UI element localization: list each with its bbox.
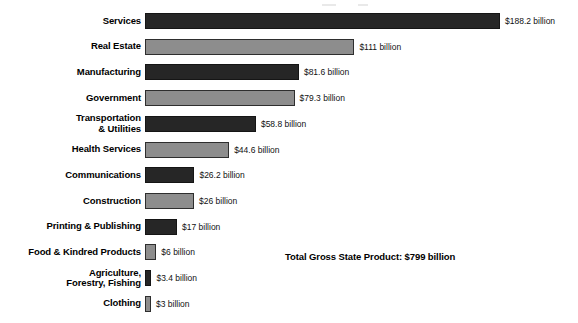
- category-label: Food & Kindred Products: [0, 247, 145, 258]
- bar-row: Clothing$3 billion: [0, 291, 578, 317]
- bar-track: $26.2 billion: [145, 162, 578, 188]
- bar-track: $26 billion: [145, 188, 578, 214]
- top-edge-artifact-right: [358, 4, 368, 6]
- bar-row: Government$79.3 billion: [0, 85, 578, 111]
- bar: [145, 142, 229, 158]
- bar-value-label: $26 billion: [194, 196, 237, 206]
- bar: [145, 219, 177, 235]
- category-label: Transportation & Utilities: [0, 113, 145, 134]
- bar-value-label: $6 billion: [156, 247, 195, 257]
- bar: [145, 13, 500, 29]
- bar-row: Printing & Publishing$17 billion: [0, 214, 578, 240]
- category-label: Agriculture, Forestry, Fishing: [0, 268, 145, 289]
- bar-value-label: $44.6 billion: [229, 145, 279, 155]
- bar: [145, 116, 256, 132]
- bar-value-label: $3.4 billion: [151, 273, 197, 283]
- bar-value-label: $111 billion: [354, 42, 401, 52]
- bar-track: $3 billion: [145, 291, 578, 317]
- bar-track: $79.3 billion: [145, 85, 578, 111]
- bar-track: $17 billion: [145, 214, 578, 240]
- bar-track: $3.4 billion: [145, 265, 578, 291]
- top-edge-artifact-left: [322, 4, 336, 6]
- bar: [145, 39, 354, 55]
- category-label: Health Services: [0, 144, 145, 155]
- category-label: Manufacturing: [0, 67, 145, 78]
- bar-row: Transportation & Utilities$58.8 billion: [0, 111, 578, 137]
- category-label: Communications: [0, 170, 145, 181]
- category-label: Services: [0, 16, 145, 27]
- bar-track: $188.2 billion: [145, 8, 578, 34]
- bar-row: Services$188.2 billion: [0, 8, 578, 34]
- bar-value-label: $3 billion: [151, 299, 190, 309]
- bar-value-label: $79.3 billion: [295, 93, 345, 103]
- bar-value-label: $81.6 billion: [299, 67, 349, 77]
- bar-row: Manufacturing$81.6 billion: [0, 59, 578, 85]
- bar: [145, 193, 194, 209]
- bar-track: $44.6 billion: [145, 137, 578, 163]
- bar: [145, 244, 156, 260]
- category-label: Government: [0, 93, 145, 104]
- bar-value-label: $17 billion: [177, 222, 220, 232]
- bar-value-label: $26.2 billion: [194, 170, 244, 180]
- total-annotation: Total Gross State Product: $799 billion: [285, 251, 455, 262]
- bar-track: $81.6 billion: [145, 59, 578, 85]
- bar-value-label: $58.8 billion: [256, 119, 306, 129]
- bar-track: $58.8 billion: [145, 111, 578, 137]
- bar-row: Construction$26 billion: [0, 188, 578, 214]
- category-label: Construction: [0, 196, 145, 207]
- bar-row: Real Estate$111 billion: [0, 34, 578, 60]
- bar-row: Communications$26.2 billion: [0, 162, 578, 188]
- category-label: Real Estate: [0, 41, 145, 52]
- bar-value-label: $188.2 billion: [500, 16, 555, 26]
- bar-track: $111 billion: [145, 34, 578, 60]
- horizontal-bar-chart: Services$188.2 billionReal Estate$111 bi…: [0, 0, 578, 323]
- bar-row: Health Services$44.6 billion: [0, 137, 578, 163]
- bar: [145, 167, 194, 183]
- category-label: Printing & Publishing: [0, 221, 145, 232]
- bar: [145, 90, 295, 106]
- category-label: Clothing: [0, 298, 145, 309]
- bar-row: Agriculture, Forestry, Fishing$3.4 billi…: [0, 265, 578, 291]
- bar: [145, 64, 299, 80]
